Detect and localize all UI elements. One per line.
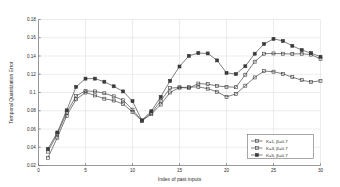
legend-label: K=1, β=0.7: [266, 139, 288, 144]
legend-label: K=3, β=0.7: [266, 146, 288, 151]
y-tick-label: 0.18: [27, 17, 36, 22]
data-point: [234, 73, 237, 76]
y-tick-label: 0.1: [30, 90, 37, 95]
x-tick-label: 0: [37, 168, 40, 173]
data-point: [169, 79, 172, 82]
y-axis-title: Temporal Quantization Error: [8, 61, 14, 124]
y-tick-label: 0.02: [27, 163, 36, 168]
data-point: [84, 77, 87, 80]
data-point: [216, 59, 219, 62]
figure-container: 051015202530 0.020.040.060.080.10.120.14…: [0, 0, 340, 187]
x-tick-label: 10: [130, 168, 136, 173]
data-point: [319, 55, 322, 58]
data-point: [197, 52, 200, 55]
data-point: [253, 52, 256, 55]
data-point: [112, 85, 115, 88]
data-point: [272, 37, 275, 40]
y-tick-label: 0.16: [27, 35, 36, 40]
data-point: [150, 110, 153, 113]
series-3: [46, 37, 322, 150]
x-tick-label: 30: [318, 168, 324, 173]
y-tick-label: 0.12: [27, 72, 36, 77]
data-point: [56, 131, 59, 134]
data-point: [281, 39, 284, 42]
data-point: [140, 119, 143, 122]
x-tick-label: 15: [177, 168, 183, 173]
legend-marker: [255, 154, 258, 157]
data-point: [103, 80, 106, 83]
temporal-quantization-error-chart: 051015202530 0.020.040.060.080.10.120.14…: [0, 0, 340, 187]
data-point: [75, 85, 78, 88]
chart-legend: K=1, β=0.7K=3, β=0.7K=5, β=0.7: [248, 135, 314, 159]
y-tick-labels: 0.020.040.060.080.10.120.140.160.18: [27, 17, 36, 168]
data-point: [263, 42, 266, 45]
x-tick-labels: 051015202530: [37, 168, 323, 173]
y-tick-label: 0.04: [27, 145, 36, 150]
data-point: [244, 65, 247, 68]
data-point: [206, 52, 209, 55]
x-tick-label: 25: [271, 168, 277, 173]
x-axis-title: Index of past inputs: [158, 176, 202, 182]
data-point: [159, 95, 162, 98]
data-point: [122, 90, 125, 93]
y-tick-label: 0.06: [27, 127, 36, 132]
data-point: [225, 71, 228, 74]
data-point: [291, 44, 294, 47]
data-point: [310, 52, 313, 55]
data-point: [178, 65, 181, 68]
y-tick-label: 0.14: [27, 54, 36, 59]
y-tick-label: 0.08: [27, 108, 36, 113]
data-point: [93, 77, 96, 80]
data-point: [187, 54, 190, 57]
legend-label: K=5, β=0.7: [266, 153, 288, 158]
x-tick-label: 5: [84, 168, 87, 173]
data-point: [46, 147, 49, 150]
data-point: [300, 49, 303, 52]
x-tick-label: 20: [224, 168, 230, 173]
data-point: [131, 100, 134, 103]
data-point: [65, 109, 68, 112]
